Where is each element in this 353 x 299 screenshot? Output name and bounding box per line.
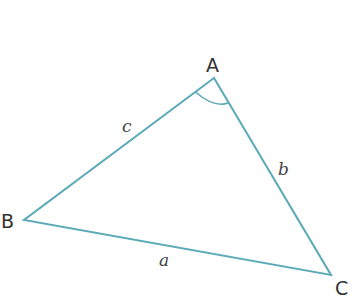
triangle-diagram: A B C c b a bbox=[0, 0, 353, 299]
side-label-a: a bbox=[159, 250, 169, 270]
side-label-b: b bbox=[278, 159, 289, 179]
side-label-c: c bbox=[122, 116, 132, 136]
vertex-label-c: C bbox=[335, 277, 348, 299]
vertex-label-b: B bbox=[1, 210, 14, 232]
vertex-label-a: A bbox=[206, 54, 219, 76]
